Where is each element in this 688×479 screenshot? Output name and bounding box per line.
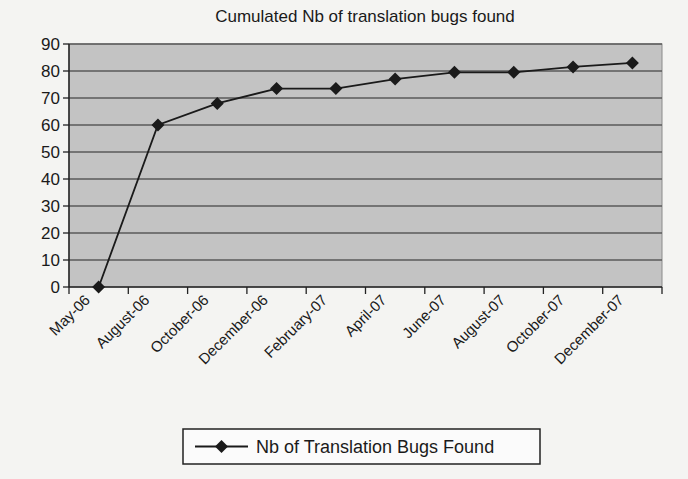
legend-label: Nb of Translation Bugs Found xyxy=(256,437,494,457)
y-tick-label: 10 xyxy=(41,251,60,270)
y-axis: 0102030405060708090 xyxy=(41,35,69,297)
x-tick-label: October-06 xyxy=(147,291,212,356)
x-tick-label: August-07 xyxy=(448,291,508,351)
y-tick-label: 40 xyxy=(41,170,60,189)
y-tick-label: 50 xyxy=(41,143,60,162)
x-tick-label: June-07 xyxy=(399,291,449,341)
x-axis: May-06August-06October-06December-06Febr… xyxy=(46,287,662,367)
x-tick-label: April-07 xyxy=(341,291,390,340)
x-tick-label: August-06 xyxy=(92,291,152,351)
chart: Cumulated Nb of translation bugs found 0… xyxy=(0,0,688,479)
y-tick-label: 70 xyxy=(41,89,60,108)
y-tick-label: 60 xyxy=(41,116,60,135)
y-tick-label: 30 xyxy=(41,197,60,216)
y-tick-label: 90 xyxy=(41,35,60,54)
y-tick-label: 80 xyxy=(41,62,60,81)
legend: Nb of Translation Bugs Found xyxy=(183,429,540,464)
plot-area xyxy=(69,44,662,287)
y-tick-label: 0 xyxy=(51,278,60,297)
chart-title: Cumulated Nb of translation bugs found xyxy=(215,7,515,26)
x-tick-label: February-07 xyxy=(261,291,331,361)
y-tick-label: 20 xyxy=(41,224,60,243)
x-tick-label: October-07 xyxy=(502,291,567,356)
x-tick-label: May-06 xyxy=(46,291,93,338)
